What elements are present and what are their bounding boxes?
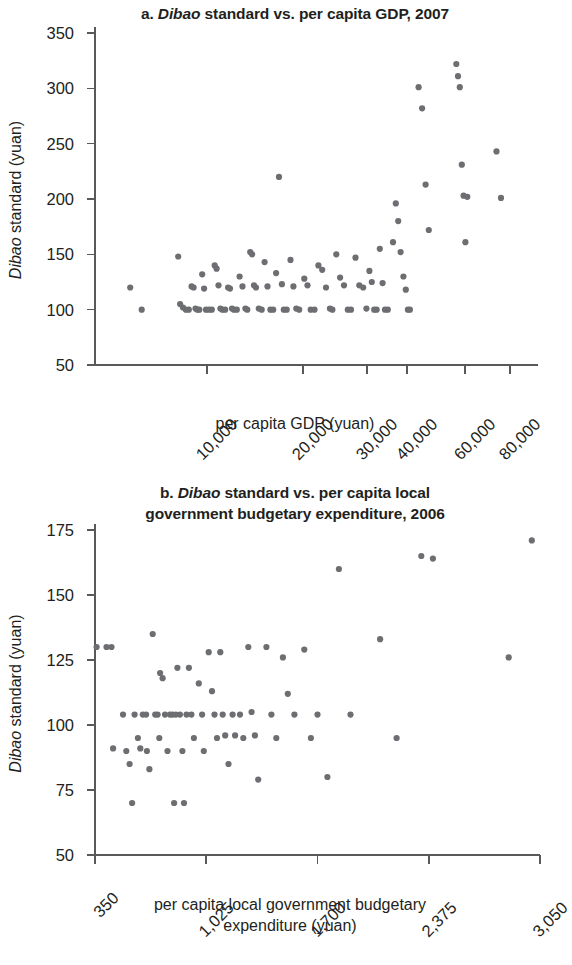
data-point: [360, 284, 366, 290]
data-point: [287, 257, 293, 263]
data-point: [255, 777, 261, 783]
data-point: [160, 675, 166, 681]
panel-b-ytick-175: 175: [22, 521, 74, 540]
data-point: [249, 709, 255, 715]
data-point: [506, 654, 512, 660]
data-point: [279, 281, 285, 287]
data-point: [177, 712, 183, 718]
data-point: [418, 553, 424, 559]
data-point: [146, 766, 152, 772]
data-point: [301, 647, 307, 653]
panel-a-y-axis-title: Dibao standard (yuan): [6, 29, 27, 371]
data-point: [273, 735, 279, 741]
data-point: [120, 712, 126, 718]
data-point: [455, 73, 461, 79]
data-point: [186, 665, 192, 671]
data-point: [249, 251, 255, 257]
data-point: [110, 745, 116, 751]
data-point: [324, 774, 330, 780]
data-point: [150, 631, 156, 637]
data-point: [319, 267, 325, 273]
data-point: [529, 537, 535, 543]
data-point: [264, 283, 270, 289]
data-point: [191, 284, 197, 290]
data-point: [191, 735, 197, 741]
data-point: [308, 735, 314, 741]
data-point: [464, 194, 470, 200]
panel-a-plot: [0, 0, 555, 465]
panel-a-ytick-150: 150: [22, 245, 74, 264]
data-point: [239, 283, 245, 289]
data-point: [390, 239, 396, 245]
data-point: [196, 307, 202, 313]
data-point: [209, 688, 215, 694]
panel-a: a. Dibao standard vs. per capita GDP, 20…: [0, 0, 555, 465]
data-point: [139, 307, 145, 313]
data-point: [284, 307, 290, 313]
data-point: [336, 566, 342, 572]
data-point: [135, 735, 141, 741]
data-point: [259, 307, 265, 313]
data-point: [453, 61, 459, 67]
data-point: [457, 84, 463, 90]
panel-a-ytick-350: 350: [22, 24, 74, 43]
data-point: [400, 273, 406, 279]
data-point: [398, 249, 404, 255]
panel-b-y-axis-title-rest: standard (yuan): [7, 614, 24, 731]
data-point: [270, 307, 276, 313]
data-point: [144, 748, 150, 754]
data-point: [366, 268, 372, 274]
data-point: [217, 649, 223, 655]
data-point: [179, 748, 185, 754]
data-point: [329, 307, 335, 313]
data-point: [385, 307, 391, 313]
data-point: [225, 761, 231, 767]
data-point: [430, 556, 436, 562]
panel-a-data-points: [127, 61, 504, 313]
data-point: [108, 644, 114, 650]
data-point: [426, 227, 432, 233]
data-point: [174, 665, 180, 671]
data-point: [123, 748, 129, 754]
data-point: [493, 148, 499, 154]
panel-a-ytick-200: 200: [22, 190, 74, 209]
data-point: [237, 712, 243, 718]
data-point: [132, 712, 138, 718]
data-point: [244, 307, 250, 313]
panel-b-data-points: [94, 537, 535, 806]
panel-b-x-axis-title-line2: expenditure (yuan): [223, 917, 356, 934]
data-point: [337, 275, 343, 281]
data-point: [156, 735, 162, 741]
data-point: [377, 246, 383, 252]
data-point: [181, 800, 187, 806]
data-point: [215, 282, 221, 288]
panel-b-ytick-150: 150: [22, 586, 74, 605]
data-point: [230, 712, 236, 718]
data-point: [222, 307, 228, 313]
panel-b-ytick-100: 100: [22, 716, 74, 735]
data-point: [220, 712, 226, 718]
data-point: [416, 84, 422, 90]
data-point: [347, 712, 353, 718]
panel-b-y-axis-title: Dibao standard (yuan): [6, 526, 27, 861]
data-point: [273, 270, 279, 276]
data-point: [291, 712, 297, 718]
data-point: [280, 654, 286, 660]
data-point: [323, 284, 329, 290]
panel-b-plot: [0, 465, 555, 965]
data-point: [304, 282, 310, 288]
data-point: [301, 276, 307, 282]
data-point: [127, 284, 133, 290]
data-point: [314, 712, 320, 718]
data-point: [252, 732, 258, 738]
data-point: [290, 283, 296, 289]
data-point: [206, 649, 212, 655]
panel-b-y-axis-title-italic: Dibao: [7, 731, 24, 773]
panel-a-y-axis-title-rest: standard (yuan): [7, 121, 24, 238]
data-point: [394, 735, 400, 741]
data-point: [285, 691, 291, 697]
data-point: [155, 712, 161, 718]
data-point: [196, 680, 202, 686]
data-point: [209, 307, 215, 313]
